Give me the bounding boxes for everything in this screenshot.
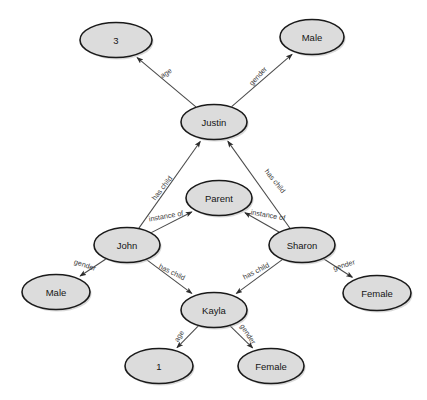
node-label: 3 xyxy=(113,35,118,46)
node-label: Male xyxy=(46,287,67,298)
node-label: Female xyxy=(361,288,393,299)
edge-label-e12: gender xyxy=(238,322,258,346)
nodes-layer: 3MaleJustinParentJohnSharonMaleFemaleKay… xyxy=(22,20,413,386)
knowledge-graph: 3MaleJustinParentJohnSharonMaleFemaleKay… xyxy=(0,0,427,400)
edge-label-e4: has child xyxy=(263,167,288,195)
graph-node-kayla[interactable]: Kayla xyxy=(181,293,249,330)
graph-node-justin[interactable]: Justin xyxy=(181,105,249,142)
graph-node-age3[interactable]: 3 xyxy=(80,23,154,60)
node-label: Male xyxy=(302,32,323,43)
graph-node-male_left[interactable]: Male xyxy=(22,275,92,312)
graph-node-john[interactable]: John xyxy=(94,228,162,265)
edge-label-e6: instance of xyxy=(250,208,286,223)
node-label: Kayla xyxy=(202,305,226,316)
node-label: Parent xyxy=(205,193,233,204)
graph-node-female_bt[interactable]: Female xyxy=(238,349,306,386)
node-label: Justin xyxy=(202,117,227,128)
graph-node-sharon[interactable]: Sharon xyxy=(269,228,337,265)
graph-node-female_rt[interactable]: Female xyxy=(343,276,413,313)
diagram-canvas: 3MaleJustinParentJohnSharonMaleFemaleKay… xyxy=(0,0,427,400)
edge-label-e5: instance of xyxy=(148,209,184,224)
node-label: Sharon xyxy=(287,240,318,251)
edge-label-e10: gender xyxy=(332,257,357,273)
graph-edge-justin-to-male_top xyxy=(232,54,292,106)
graph-node-male_top[interactable]: Male xyxy=(280,20,346,57)
node-label: Female xyxy=(255,361,287,372)
node-label: 1 xyxy=(156,361,161,372)
edge-label-e7: gender xyxy=(73,257,98,273)
edge-label-e3: has child xyxy=(150,174,175,202)
graph-node-parent[interactable]: Parent xyxy=(186,181,254,218)
graph-edge-justin-to-age3 xyxy=(137,58,196,107)
graph-node-age1[interactable]: 1 xyxy=(125,349,195,386)
node-label: John xyxy=(117,240,138,251)
